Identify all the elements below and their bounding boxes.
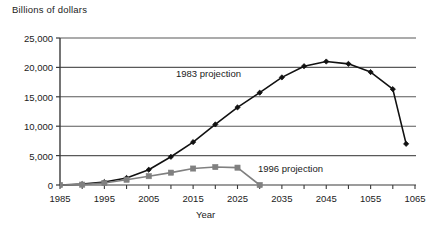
data-point-marker [80,182,85,187]
x-tick-label: 1995 [94,193,115,204]
data-point-marker [146,174,151,179]
y-tick-label: 25,000 [6,33,53,44]
x-tick-label: 1065 [404,193,425,204]
y-tick-label: 20,000 [6,62,53,73]
x-tick-label: 2035 [271,193,292,204]
series-line-2 [60,167,260,185]
x-tick-label: 2005 [138,193,159,204]
series-annotation-label: 1983 projection [176,68,241,79]
data-point-marker [301,64,306,69]
y-tick-label: 0 [6,180,53,191]
x-tick-label: 1055 [360,193,381,204]
x-tick-label: 2015 [183,193,204,204]
y-axis-title: Billions of dollars [12,4,87,15]
data-point-marker [213,164,218,169]
data-point-marker [102,180,107,185]
series-annotation-label: 1996 projection [258,163,323,174]
x-tick-label: 2025 [227,193,248,204]
y-tick-label: 10,000 [6,121,53,132]
data-point-marker [124,177,129,182]
data-point-marker [168,170,173,175]
y-tick-label: 5,000 [6,150,53,161]
x-tick-label: 2045 [316,193,337,204]
data-point-marker [235,165,240,170]
data-point-marker [191,166,196,171]
x-tick-label: 1985 [49,193,70,204]
data-point-marker [257,182,262,187]
series-line-1 [60,62,406,185]
data-point-marker [346,61,351,66]
chart-container: Billions of dollars Year 05,00010,00015,… [0,0,446,227]
data-point-marker [324,59,329,64]
data-point-marker [404,141,409,146]
y-tick-label: 15,000 [6,91,53,102]
x-axis-title: Year [196,209,215,220]
